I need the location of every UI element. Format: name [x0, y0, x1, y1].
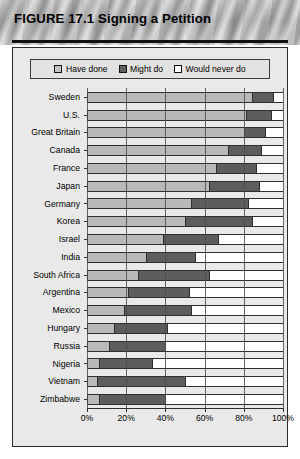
stacked-bar [87, 270, 283, 281]
y-axis-label-france: France [12, 164, 84, 173]
bar-segment-would-never-do [166, 395, 284, 404]
y-axis-label-great-britain: Great Britain [12, 128, 84, 137]
bar-segment-might-do [115, 324, 168, 333]
bar-segment-might-do [98, 377, 186, 386]
bar-segment-would-never-do [186, 377, 284, 386]
legend-swatch-might-do-icon [119, 65, 127, 73]
chart-rows: SwedenU.S.Great BritainCanadaFranceJapan… [12, 88, 288, 408]
legend-item-have-done: Have done [54, 65, 107, 74]
y-axis-label-sweden: Sweden [12, 93, 84, 102]
stacked-bar [87, 394, 283, 405]
stacked-bar [87, 341, 283, 352]
bar-segment-would-never-do [260, 182, 284, 191]
stacked-bar [87, 181, 283, 192]
chart-row: Canada [12, 141, 288, 160]
bar-segment-might-do [217, 164, 256, 173]
chart-row: Germany [12, 195, 288, 214]
bar-segment-have-done [88, 271, 139, 280]
legend-swatch-would-never-do-icon [174, 65, 182, 73]
bar-segment-would-never-do [210, 271, 284, 280]
stacked-bar [87, 376, 283, 387]
bar-segment-have-done [88, 217, 186, 226]
y-axis-label-argentina: Argentina [12, 288, 84, 297]
x-axis-tick-label: 100% [272, 414, 294, 423]
bar-segment-have-done [88, 306, 125, 315]
stacked-bar [87, 145, 283, 156]
bar-segment-might-do [100, 359, 153, 368]
y-axis-label-mexico: Mexico [12, 306, 84, 315]
legend-label-have-done: Have done [66, 65, 108, 74]
y-axis-label-germany: Germany [12, 200, 84, 209]
stacked-bar [87, 92, 283, 103]
x-axis-line [87, 408, 283, 409]
chart-row: U.S. [12, 106, 288, 125]
x-axis-tick [87, 408, 88, 412]
bar-segment-have-done [88, 395, 100, 404]
y-axis-label-vietnam: Vietnam [12, 377, 84, 386]
bar-segment-would-never-do [190, 288, 284, 297]
bar-segment-would-never-do [196, 253, 284, 262]
y-axis-label-russia: Russia [12, 342, 84, 351]
legend-item-would-never-do: Would never do [174, 65, 246, 74]
stacked-bar [87, 127, 283, 138]
x-axis-tick [205, 408, 206, 412]
stacked-bar [87, 323, 283, 334]
chart-row: Mexico [12, 301, 288, 320]
bar-segment-have-done [88, 235, 164, 244]
chart-row: Nigeria [12, 355, 288, 374]
x-axis: 0%20%40%60%80%100% [87, 408, 283, 438]
bar-segment-would-never-do [219, 235, 284, 244]
bar-segment-might-do [247, 111, 272, 120]
y-axis-label-zimbabwe: Zimbabwe [12, 395, 84, 404]
bar-segment-would-never-do [153, 359, 284, 368]
legend-item-might-do: Might do [119, 65, 163, 74]
x-axis-tick [283, 408, 284, 412]
y-axis-label-japan: Japan [12, 182, 84, 191]
x-axis-tick-label: 20% [118, 414, 135, 423]
bar-segment-have-done [88, 199, 192, 208]
stacked-bar [87, 358, 283, 369]
chart-row: Hungary [12, 319, 288, 338]
bar-segment-would-never-do [253, 217, 284, 226]
y-axis-label-nigeria: Nigeria [12, 360, 84, 369]
bar-segment-have-done [88, 359, 100, 368]
bar-segment-would-never-do [168, 324, 284, 333]
bar-segment-might-do [229, 146, 262, 155]
bar-segment-would-never-do [266, 128, 284, 137]
bar-segment-might-do [147, 253, 196, 262]
bar-segment-have-done [88, 288, 129, 297]
bar-segment-would-never-do [274, 93, 284, 102]
legend-label-might-do: Might do [130, 65, 163, 74]
y-axis-label-u-s-: U.S. [12, 111, 84, 120]
bar-segment-have-done [88, 164, 217, 173]
x-axis-tick-label: 80% [235, 414, 252, 423]
bar-segment-might-do [100, 395, 167, 404]
x-axis-tick [126, 408, 127, 412]
figure-header-band: FIGURE 17.1 Signing a Petition [0, 0, 300, 45]
bar-segment-would-never-do [272, 111, 284, 120]
chart-row: Great Britain [12, 124, 288, 143]
stacked-bar [87, 198, 283, 209]
bar-segment-would-never-do [192, 306, 284, 315]
bar-segment-might-do [245, 128, 267, 137]
x-axis-tick [244, 408, 245, 412]
stacked-bar [87, 252, 283, 263]
bar-segment-might-do [125, 306, 192, 315]
chart-row: India [12, 248, 288, 267]
stacked-bar [87, 305, 283, 316]
chart-legend: Have done Might do Would never do [30, 59, 270, 79]
bar-segment-have-done [88, 377, 98, 386]
bar-segment-have-done [88, 342, 110, 351]
legend-label-would-never-do: Would never do [186, 65, 246, 74]
y-axis-label-israel: Israel [12, 235, 84, 244]
bar-segment-might-do [129, 288, 190, 297]
bar-segment-have-done [88, 111, 247, 120]
stacked-bar [87, 287, 283, 298]
bar-segment-might-do [186, 217, 253, 226]
bar-segment-have-done [88, 128, 245, 137]
bar-segment-would-never-do [257, 164, 284, 173]
legend-swatch-have-done-icon [54, 65, 62, 73]
y-axis-label-korea: Korea [12, 217, 84, 226]
bar-segment-would-never-do [249, 199, 284, 208]
chart-row: Israel [12, 230, 288, 249]
